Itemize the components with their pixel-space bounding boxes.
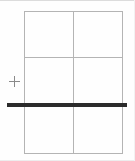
grid-column-divider-1	[73, 11, 74, 154]
grid-cell-r3c2	[74, 106, 122, 153]
plus-icon-vertical-stroke	[14, 76, 15, 87]
grid-cell-r1c2	[74, 12, 122, 57]
grid-cell-r1c1	[25, 12, 73, 57]
page-frame-right-edge	[134, 0, 135, 161]
grid-cell-r3c1	[25, 106, 73, 153]
bold-horizontal-rule	[7, 103, 127, 107]
grid-cell-r2c2	[74, 58, 122, 105]
page-frame-top-edge	[0, 0, 135, 1]
figure-canvas	[0, 0, 135, 161]
plus-marker	[9, 76, 20, 87]
page-frame-bottom-edge	[0, 160, 135, 161]
grid-cell-r2c1	[25, 58, 73, 105]
